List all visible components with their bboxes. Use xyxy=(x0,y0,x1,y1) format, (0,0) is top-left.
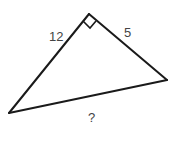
right-leg-label: 5 xyxy=(124,25,131,40)
right-angle-marker-icon xyxy=(83,21,96,28)
left-leg-label: 12 xyxy=(49,29,63,44)
hypotenuse-label: ? xyxy=(88,110,95,125)
right-leg-line xyxy=(89,14,167,80)
right-triangle-diagram: 12 5 ? xyxy=(0,0,176,152)
